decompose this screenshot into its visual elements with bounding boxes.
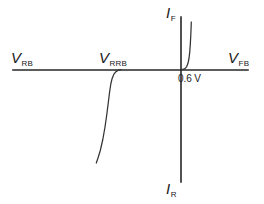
knee-voltage-label: 0.6 V [178,74,201,84]
reverse-current-subscript: R [171,190,177,199]
forward-current-symbol: I [166,4,170,21]
reverse-current-symbol: I [166,180,170,197]
reverse-breakdown-subscript: RRB [110,59,128,68]
reverse-bias-subscript: RB [22,59,34,68]
forward-current-axis-label: IF [166,5,175,20]
diode-iv-characteristic-figure: VRB VRRB VFB IF IR 0.6 V [0,0,264,204]
forward-bias-subscript: FB [239,59,250,68]
forward-bias-axis-label: VFB [228,50,249,65]
reverse-breakdown-symbol: V [99,49,109,66]
reverse-current-axis-label: IR [166,181,176,196]
plot-canvas [0,0,264,204]
reverse-breakdown-curve [96,70,121,164]
forward-bias-symbol: V [228,49,238,66]
forward-conduction-curve [182,22,192,70]
reverse-bias-symbol: V [11,49,21,66]
forward-current-subscript: F [171,14,176,23]
reverse-breakdown-axis-label: VRRB [99,50,127,65]
reverse-bias-axis-label: VRB [11,50,33,65]
